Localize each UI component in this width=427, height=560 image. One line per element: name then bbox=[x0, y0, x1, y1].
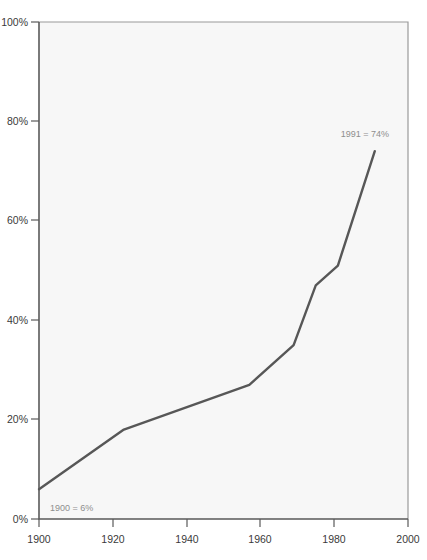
y-axis-ticks bbox=[31, 22, 39, 519]
y-tick-label-80: 80% bbox=[7, 115, 28, 127]
x-tick-label-1940: 1940 bbox=[175, 533, 199, 545]
x-axis-ticks bbox=[39, 519, 408, 527]
y-tick-label-40: 40% bbox=[7, 314, 28, 326]
plot-area-background bbox=[39, 22, 408, 519]
annotation-end-label: 1991 = 74% bbox=[341, 129, 389, 139]
x-tick-label-1980: 1980 bbox=[322, 533, 346, 545]
x-tick-label-1960: 1960 bbox=[248, 533, 272, 545]
y-tick-label-100: 100% bbox=[1, 16, 28, 28]
y-axis-tick-labels: 100% 80% 60% 40% 20% 0% bbox=[1, 16, 28, 525]
chart-canvas: 100% 80% 60% 40% 20% 0% 1900 1920 1940 1… bbox=[0, 0, 427, 560]
annotation-start-label: 1900 = 6% bbox=[50, 503, 93, 513]
y-tick-label-60: 60% bbox=[7, 214, 28, 226]
x-axis-tick-labels: 1900 1920 1940 1960 1980 2000 bbox=[27, 533, 420, 545]
line-chart: 100% 80% 60% 40% 20% 0% 1900 1920 1940 1… bbox=[0, 0, 427, 560]
x-tick-label-1920: 1920 bbox=[101, 533, 125, 545]
x-tick-label-1900: 1900 bbox=[27, 533, 51, 545]
y-tick-label-20: 20% bbox=[7, 413, 28, 425]
y-tick-label-0: 0% bbox=[13, 513, 28, 525]
x-tick-label-2000: 2000 bbox=[396, 533, 420, 545]
